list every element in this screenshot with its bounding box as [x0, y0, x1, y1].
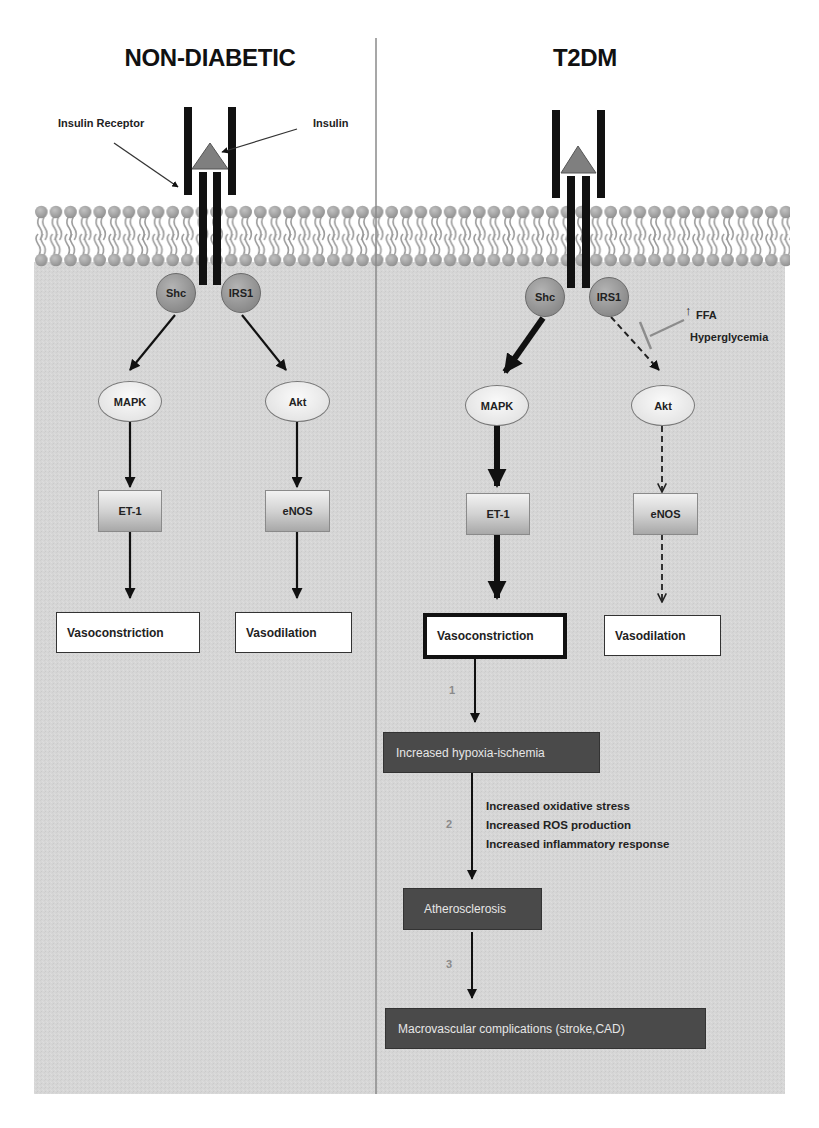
akt-node-left: Akt: [265, 381, 330, 422]
vasodilation-box-left: Vasodilation: [235, 612, 352, 653]
irs1-node-left: IRS1: [221, 273, 261, 313]
enos-node-left: eNOS: [265, 490, 330, 532]
akt-node-right: Akt: [631, 385, 695, 426]
et1-node-left: ET-1: [98, 490, 162, 532]
irs1-node-right: IRS1: [589, 277, 629, 317]
hyperglycemia-label: Hyperglycemia: [690, 331, 768, 343]
shc-node-left: Shc: [156, 273, 196, 313]
mapk-node-left: MAPK: [98, 381, 162, 422]
ffa-increase-icon: ↑: [685, 303, 692, 318]
mapk-node-right: MAPK: [465, 385, 529, 426]
pathology-effects-list: Increased oxidative stress Increased ROS…: [486, 797, 669, 854]
macrovascular-complications-box: Macrovascular complications (stroke,CAD): [385, 1008, 706, 1049]
enos-node-right: eNOS: [633, 493, 698, 535]
cell-membrane: [34, 205, 790, 267]
effect-oxidative-stress: Increased oxidative stress: [486, 797, 669, 816]
hypoxia-ischemia-box: Increased hypoxia-ischemia: [383, 732, 600, 773]
shc-node-right: Shc: [525, 277, 565, 317]
atherosclerosis-box: Atherosclerosis: [403, 888, 542, 930]
step-number-1: 1: [449, 684, 455, 696]
vasodilation-box-right: Vasodilation: [604, 615, 721, 656]
panel-title-t2dm: T2DM: [540, 44, 630, 72]
ffa-label: FFA: [696, 309, 717, 321]
insulin-triangle-left: [192, 143, 228, 169]
vasoconstriction-box-left: Vasoconstriction: [56, 612, 200, 653]
insulin-receptor-label: Insulin Receptor: [58, 117, 144, 129]
effect-inflammatory-response: Increased inflammatory response: [486, 835, 669, 854]
vasoconstriction-box-right: Vasoconstriction: [423, 613, 567, 659]
effect-ros-production: Increased ROS production: [486, 816, 669, 835]
et1-node-right: ET-1: [466, 493, 530, 535]
panel-title-non-diabetic: NON-DIABETIC: [100, 44, 320, 72]
step-number-3: 3: [446, 958, 452, 970]
diagram-canvas: [0, 0, 819, 1128]
insulin-label: Insulin: [313, 117, 348, 129]
insulin-triangle-right: [561, 146, 596, 173]
step-number-2: 2: [446, 818, 452, 830]
